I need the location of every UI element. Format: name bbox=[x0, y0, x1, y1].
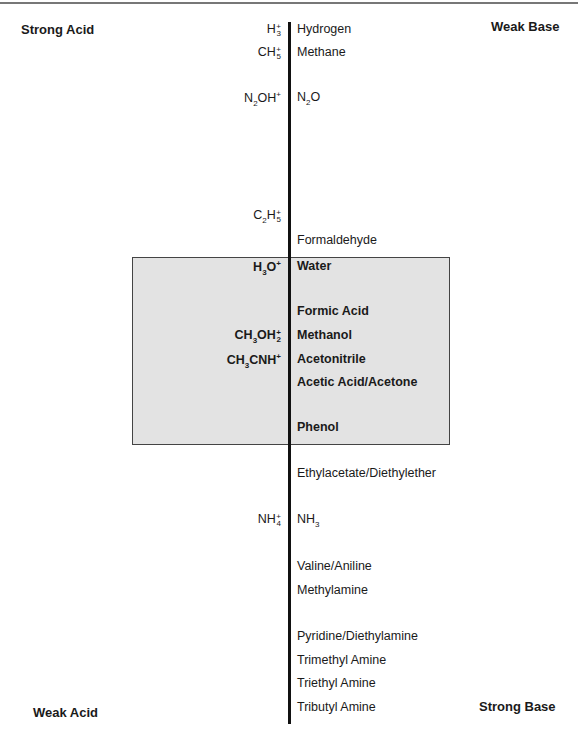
protic-solvent-highlight-box bbox=[132, 257, 450, 445]
base-methanol: Methanol bbox=[297, 328, 352, 342]
base-phenol: Phenol bbox=[297, 420, 339, 434]
base-water: Water bbox=[297, 259, 331, 273]
acid-n2oh-plus: N2OH+ bbox=[244, 90, 281, 108]
base-nh3: NH3 bbox=[297, 512, 320, 529]
base-trimethyl-amine: Trimethyl Amine bbox=[297, 653, 386, 667]
top-rule bbox=[0, 2, 578, 4]
acid-ch5-plus: CH+5 bbox=[258, 45, 281, 60]
base-methane: Methane bbox=[297, 45, 346, 59]
base-acetic-acid-acetone: Acetic Acid/Acetone bbox=[297, 375, 417, 389]
base-tributyl-amine: Tributyl Amine bbox=[297, 700, 376, 714]
base-ethylacetate-diethylether: Ethylacetate/Diethylether bbox=[297, 466, 436, 480]
base-hydrogen: Hydrogen bbox=[297, 22, 351, 36]
base-methylamine: Methylamine bbox=[297, 583, 368, 597]
base-acetonitrile: Acetonitrile bbox=[297, 352, 366, 366]
base-n2o: N2O bbox=[297, 90, 320, 107]
label-strong-acid: Strong Acid bbox=[21, 22, 94, 37]
base-pyridine-diethylamine: Pyridine/Diethylamine bbox=[297, 629, 418, 643]
label-weak-acid: Weak Acid bbox=[33, 705, 98, 720]
acid-h3o-plus: H3O+ bbox=[253, 259, 281, 277]
acid-h3-plus: H+3 bbox=[267, 22, 281, 37]
label-strong-base: Strong Base bbox=[479, 699, 556, 714]
base-formic-acid: Formic Acid bbox=[297, 304, 369, 318]
base-triethyl-amine: Triethyl Amine bbox=[297, 676, 376, 690]
proton-affinity-axis bbox=[288, 22, 291, 724]
base-valine-aniline: Valine/Aniline bbox=[297, 559, 372, 573]
acid-c2h5-plus: C2H+5 bbox=[253, 208, 281, 225]
base-formaldehyde: Formaldehyde bbox=[297, 233, 377, 247]
label-weak-base: Weak Base bbox=[491, 19, 559, 34]
acid-ch3oh2-plus: CH3OH+2 bbox=[235, 328, 281, 345]
acid-ch3cnh-plus: CH3CNH+ bbox=[227, 352, 281, 370]
acid-nh4-plus: NH+4 bbox=[258, 512, 281, 527]
